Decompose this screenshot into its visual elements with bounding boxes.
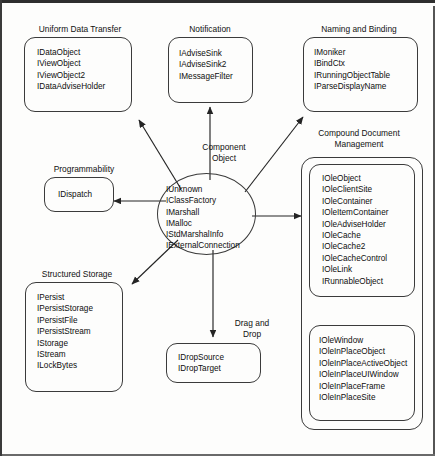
interface-list-uniform-data-transfer: IDataObject IViewObject IViewObject2 IDa… bbox=[37, 47, 132, 93]
interface-list-compound-document-inplace: IOleWindow IOleInPlaceObject IOleInPlace… bbox=[319, 335, 423, 403]
diagram-page: Uniform Data Transfer IDataObject IViewO… bbox=[0, 0, 435, 456]
interface-list-compound-document-primary: IOleObject IOleClientSite IOleContainer … bbox=[322, 173, 422, 287]
interface-list-programmability: IDispatch bbox=[58, 189, 118, 200]
group-caption-drag-and-drop: Drag and Drop bbox=[222, 318, 282, 339]
arrow-to-uniform-data-transfer bbox=[139, 120, 181, 189]
group-caption-uniform-data-transfer: Uniform Data Transfer bbox=[14, 24, 146, 35]
interface-list-center: IUnknown IClassFactory IMarshall IMalloc… bbox=[166, 184, 266, 252]
group-caption-naming-and-binding: Naming and Binding bbox=[296, 24, 422, 35]
structured-storage-caption-text: Structured Storage bbox=[42, 269, 112, 279]
interface-list-drag-and-drop: IDropSource IDropTarget bbox=[178, 352, 263, 375]
interface-list-notification: IAdviseSink IAdviseSink2 IMessageFilter bbox=[179, 48, 259, 82]
group-caption-notification: Notification bbox=[160, 24, 260, 35]
interface-list-naming-and-binding: IMoniker IBindCtx IRunningObjectTable IP… bbox=[314, 47, 419, 93]
group-caption-programmability: Programmability bbox=[36, 164, 132, 175]
center-node-label: Component Object bbox=[188, 142, 260, 163]
interface-list-structured-storage: IPersist IPersistStorage IPersistFile IP… bbox=[37, 292, 127, 372]
group-caption-structured-storage: Structured Storage bbox=[20, 269, 134, 280]
group-caption-compound-document-management: Compound Document Management bbox=[296, 128, 422, 149]
